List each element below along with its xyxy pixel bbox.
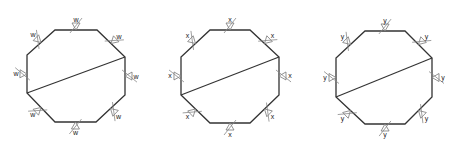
edge-label: x [228,131,232,138]
edge-label: y [341,33,345,41]
diagonal-chord [336,58,432,97]
edge-marker: y [341,32,351,51]
edge-label: w [116,33,123,40]
edge-label: w [72,16,79,23]
edge-label: y [383,17,387,25]
edge-marker: y [419,104,429,123]
octagon-diagram: wwwwwwww xxxxxxxx yyyyyyyy w x y [0,0,455,153]
edge-label: y [341,115,345,123]
edge-label: y [425,115,429,123]
edge-label: x [168,72,172,79]
edge-label: w [115,113,122,120]
octagon-figure-w: wwwwwwww [12,16,139,137]
edge-label: x [271,113,275,120]
edge-label: w [12,70,19,77]
edge-marker: y [412,33,431,44]
edge-label: x [228,16,232,23]
edge-marker: x [265,103,275,122]
edge-marker: y [338,111,357,123]
octagon-figure-x: xxxxxxxx [168,16,292,138]
edge-marker: w [105,33,124,44]
edge-label: x [271,32,275,39]
edge-label: w [29,31,36,38]
edge-marker: x [258,32,277,43]
octagon-figure-y: yyyyyyyy [323,17,445,140]
edge-label: w [132,73,139,80]
edge-marker: w [111,102,122,121]
edge-label: y [425,33,429,41]
edge-label: x [186,32,190,39]
edge-label: y [383,131,387,139]
diagonal-chord [27,57,125,93]
diagonal-chord [181,57,279,95]
edge-label: x [288,72,292,79]
edge-label: x [186,113,190,120]
edge-marker: w [28,108,47,119]
edge-label: w [29,111,36,118]
edge-marker: x [183,109,202,120]
edge-marker: x [186,31,196,50]
edge-label: y [323,74,327,82]
edge-label: y [441,74,445,82]
edge-marker: w [29,30,41,49]
edge-label: w [72,129,79,136]
